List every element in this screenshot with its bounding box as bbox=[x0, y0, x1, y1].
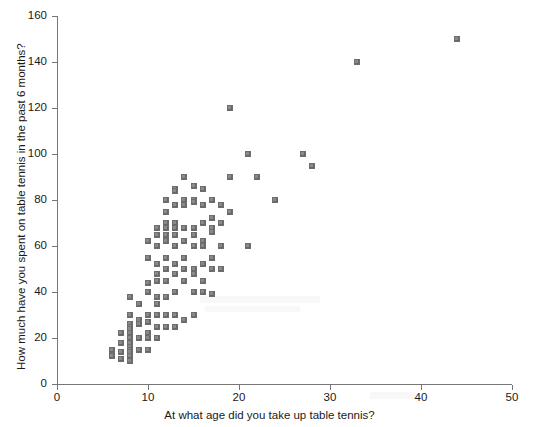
x-tick-label: 30 bbox=[310, 391, 350, 403]
data-point bbox=[218, 266, 224, 272]
y-tick-label: 120 bbox=[7, 101, 47, 113]
data-point bbox=[163, 324, 169, 330]
data-point bbox=[136, 321, 142, 327]
y-tick-label: 80 bbox=[7, 193, 47, 205]
data-point bbox=[127, 294, 133, 300]
data-point bbox=[200, 289, 206, 295]
y-tick-label: 160 bbox=[7, 9, 47, 21]
data-point bbox=[191, 199, 197, 205]
data-point bbox=[200, 261, 206, 267]
data-point bbox=[145, 347, 151, 353]
data-point bbox=[181, 317, 187, 323]
data-point bbox=[181, 266, 187, 272]
data-point bbox=[200, 243, 206, 249]
x-tick-label: 50 bbox=[492, 391, 532, 403]
data-point bbox=[145, 238, 151, 244]
data-point bbox=[191, 243, 197, 249]
x-tick-label: 20 bbox=[219, 391, 259, 403]
data-point bbox=[272, 197, 278, 203]
data-point bbox=[218, 243, 224, 249]
data-point bbox=[172, 188, 178, 194]
data-point bbox=[154, 335, 160, 341]
data-point bbox=[145, 335, 151, 341]
data-point bbox=[154, 261, 160, 267]
x-tick-label: 0 bbox=[37, 391, 77, 403]
y-tick-label: 140 bbox=[7, 55, 47, 67]
data-point bbox=[154, 301, 160, 307]
data-point bbox=[191, 289, 197, 295]
data-point bbox=[200, 220, 206, 226]
data-point bbox=[245, 151, 251, 157]
data-point bbox=[181, 278, 187, 284]
data-point bbox=[154, 232, 160, 238]
scatter-plot-figure: 020406080100120140160 01020304050 At wha… bbox=[0, 0, 539, 427]
x-tick-mark bbox=[239, 385, 240, 390]
y-tick-label: 0 bbox=[7, 377, 47, 389]
data-point bbox=[154, 225, 160, 231]
data-point bbox=[245, 243, 251, 249]
data-point bbox=[300, 151, 306, 157]
data-point bbox=[145, 280, 151, 286]
y-tick-label: 40 bbox=[7, 285, 47, 297]
y-axis-title: How much have you spent on table tennis … bbox=[15, 43, 27, 370]
data-point bbox=[209, 255, 215, 261]
data-point bbox=[354, 59, 360, 65]
data-point bbox=[191, 232, 197, 238]
data-point bbox=[309, 163, 315, 169]
data-point bbox=[154, 278, 160, 284]
data-point bbox=[200, 186, 206, 192]
data-point bbox=[163, 255, 169, 261]
data-point bbox=[118, 340, 124, 346]
data-point bbox=[118, 349, 124, 355]
data-point bbox=[172, 312, 178, 318]
y-tick-label: 20 bbox=[7, 331, 47, 343]
data-point bbox=[154, 324, 160, 330]
data-point bbox=[163, 238, 169, 244]
data-point bbox=[209, 215, 215, 221]
x-axis-line bbox=[57, 384, 512, 385]
data-point bbox=[118, 330, 124, 336]
data-point bbox=[145, 255, 151, 261]
data-point bbox=[181, 174, 187, 180]
data-point bbox=[191, 312, 197, 318]
data-point bbox=[127, 312, 133, 318]
x-tick-mark bbox=[421, 385, 422, 390]
data-point bbox=[227, 174, 233, 180]
data-point bbox=[163, 209, 169, 215]
data-point bbox=[163, 312, 169, 318]
x-tick-mark bbox=[512, 385, 513, 390]
x-tick-label: 40 bbox=[401, 391, 441, 403]
data-point bbox=[145, 289, 151, 295]
data-point bbox=[109, 353, 115, 359]
data-point bbox=[163, 266, 169, 272]
data-point bbox=[172, 225, 178, 231]
data-point bbox=[172, 324, 178, 330]
data-point bbox=[227, 105, 233, 111]
data-point bbox=[163, 232, 169, 238]
data-point bbox=[172, 202, 178, 208]
data-point bbox=[145, 319, 151, 325]
data-point bbox=[209, 266, 215, 272]
data-point bbox=[136, 347, 142, 353]
data-point bbox=[172, 261, 178, 267]
data-point bbox=[209, 229, 215, 235]
data-point bbox=[172, 271, 178, 277]
x-tick-label: 10 bbox=[128, 391, 168, 403]
y-tick-label: 60 bbox=[7, 239, 47, 251]
plot-data-area bbox=[57, 16, 512, 384]
data-point bbox=[172, 232, 178, 238]
x-tick-mark bbox=[330, 385, 331, 390]
data-point bbox=[209, 197, 215, 203]
data-point bbox=[154, 294, 160, 300]
data-point bbox=[154, 312, 160, 318]
data-point bbox=[109, 347, 115, 353]
data-point bbox=[145, 312, 151, 318]
data-point bbox=[200, 202, 206, 208]
data-point bbox=[136, 335, 142, 341]
data-point bbox=[191, 271, 197, 277]
data-point bbox=[127, 358, 133, 364]
data-point bbox=[181, 238, 187, 244]
data-point bbox=[163, 278, 169, 284]
data-point bbox=[454, 36, 460, 42]
x-tick-mark bbox=[57, 385, 58, 390]
